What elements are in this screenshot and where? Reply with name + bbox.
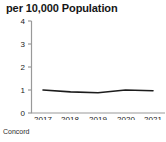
y-tick-label-1: 1: [21, 86, 26, 95]
data-series-concord: [43, 90, 153, 93]
plot-area: 4 3 2 1 0 2017 2018 2019 2020 2021: [0, 16, 166, 120]
x-tick-label-2020: 2020: [117, 115, 135, 120]
x-tick-label-2017: 2017: [34, 115, 52, 120]
chart-title: per 10,000 Population: [6, 1, 164, 15]
plot-svg: 4 3 2 1 0 2017 2018 2019 2020 2021: [0, 16, 166, 120]
line-chart-figure: per 10,000 Population 4 3 2 1 0: [0, 0, 166, 142]
y-tick-label-3: 3: [21, 40, 26, 49]
x-tick-label-2021: 2021: [144, 115, 162, 120]
y-tick-label-0: 0: [21, 109, 26, 118]
chart-caption-label: Concord: [3, 127, 29, 136]
x-tick-label-2019: 2019: [89, 115, 107, 120]
y-tick-label-2: 2: [21, 63, 26, 72]
y-tick-label-4: 4: [21, 17, 26, 26]
x-tick-label-2018: 2018: [61, 115, 79, 120]
